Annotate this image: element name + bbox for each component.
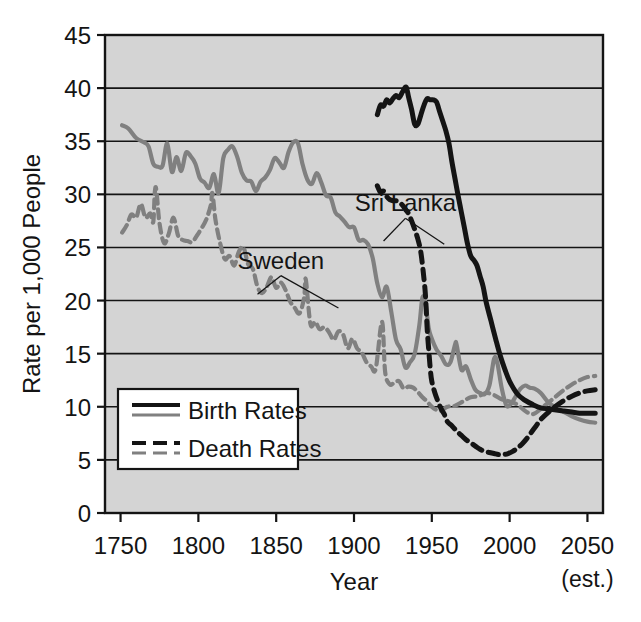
- x-axis-label: Year: [330, 568, 379, 595]
- annotation-label-sri-lanka: Sri Lanka: [355, 189, 457, 216]
- y-axis-label: Rate per 1,000 People: [18, 154, 45, 394]
- ytick-label-35: 35: [64, 128, 91, 155]
- xtick-label-2050: 2050: [561, 532, 614, 559]
- ytick-label-25: 25: [64, 234, 91, 261]
- legend-label-2: Death Rates: [188, 435, 321, 462]
- xtick-label-1800: 1800: [172, 532, 225, 559]
- ytick-label-45: 45: [64, 22, 91, 49]
- xtick-label-1850: 1850: [249, 532, 302, 559]
- annotation-label-sweden: Sweden: [237, 247, 324, 274]
- xtick-label-2000: 2000: [483, 532, 536, 559]
- chart-root: 1750180018501900195020002050(est.)051015…: [0, 0, 641, 622]
- ytick-label-15: 15: [64, 341, 91, 368]
- ytick-label-30: 30: [64, 181, 91, 208]
- ytick-label-5: 5: [78, 447, 91, 474]
- xtick-label-1950: 1950: [405, 532, 458, 559]
- ytick-label-10: 10: [64, 394, 91, 421]
- demographic-transition-chart: 1750180018501900195020002050(est.)051015…: [0, 0, 641, 622]
- xtick-label-1750: 1750: [94, 532, 147, 559]
- xtick-note-est: (est.): [561, 566, 613, 592]
- legend: Birth RatesDeath Rates: [118, 389, 321, 469]
- ytick-label-0: 0: [78, 500, 91, 527]
- ytick-label-40: 40: [64, 75, 91, 102]
- legend-label-1: Birth Rates: [188, 397, 307, 424]
- xtick-label-1900: 1900: [327, 532, 380, 559]
- ytick-label-20: 20: [64, 288, 91, 315]
